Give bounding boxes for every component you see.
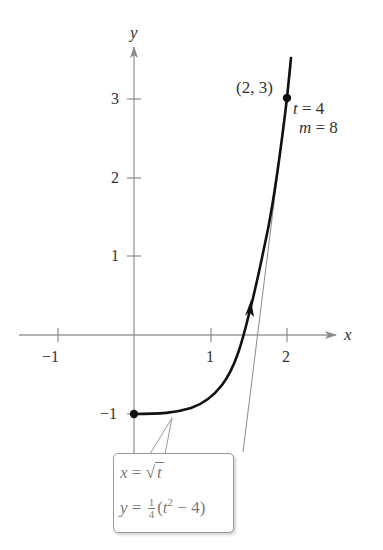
y-axis-label: y — [130, 24, 138, 41]
equation-callout: x = √t y = 14(t2 − 4) — [113, 453, 234, 533]
x-tick-label-neg1: −1 — [42, 349, 59, 365]
y-equation: y = 14(t2 − 4) — [120, 496, 205, 520]
y-tick-label-1: 1 — [111, 248, 119, 264]
y-eq-rest: − 4) — [173, 498, 205, 517]
x-tick-label-2: 2 — [282, 349, 290, 365]
x-eq-op: = √ — [128, 463, 155, 482]
y-tick-label-2: 2 — [111, 170, 119, 186]
point-coords-label: (2, 3) — [236, 79, 273, 96]
start-point — [130, 410, 138, 418]
x-eq-arg: t — [155, 462, 164, 482]
x-tick-label-1: 1 — [206, 349, 214, 365]
y-eq-op: = — [128, 498, 146, 517]
point-2-3 — [283, 94, 291, 102]
m-eq: = 8 — [311, 118, 338, 137]
x-eq-var: x — [120, 463, 128, 482]
y-tick-label-neg1: −1 — [100, 406, 117, 422]
t-eq: = 4 — [298, 99, 325, 118]
callout-pointer — [150, 418, 172, 454]
y-eq-var: y — [120, 498, 128, 517]
fraction-denominator: 4 — [148, 509, 156, 520]
t-value-label: t = 4 — [293, 100, 324, 117]
x-axis-label: x — [344, 326, 352, 343]
x-equation: x = √t — [120, 463, 164, 483]
m-var: m — [299, 118, 311, 137]
fraction: 14 — [148, 497, 156, 520]
slope-label: m = 8 — [299, 119, 338, 136]
y-tick-label-3: 3 — [111, 91, 119, 107]
